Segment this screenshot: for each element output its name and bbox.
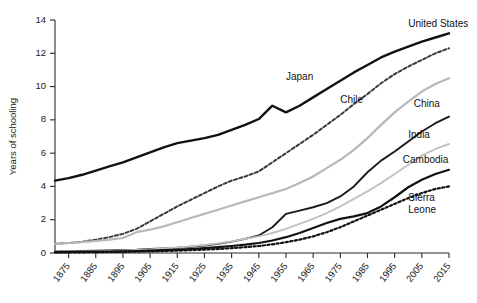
series-label-china: China — [414, 98, 441, 109]
series-line-chile — [55, 78, 449, 244]
series-line-japan — [55, 48, 449, 244]
x-tick-label: 1955 — [268, 260, 290, 283]
y-axis-group: 02468101214 Years of schooling — [7, 14, 55, 258]
years-of-schooling-chart: 02468101214 Years of schooling 187518851… — [0, 0, 477, 303]
x-tick-label: 1885 — [78, 260, 100, 283]
y-tick-label: 4 — [41, 180, 46, 191]
x-tick-label: 1945 — [241, 260, 263, 283]
x-tick-label: 2015 — [431, 260, 453, 283]
y-tick-label: 10 — [35, 80, 46, 91]
x-tick-label: 1995 — [377, 260, 399, 283]
x-tick-label: 1925 — [186, 260, 208, 283]
x-tick-label: 1975 — [322, 260, 344, 283]
x-tick-label: 1905 — [132, 260, 154, 283]
y-tick-label: 2 — [41, 213, 46, 224]
y-tick-group: 02468101214 — [35, 14, 55, 258]
x-tick-label: 1935 — [214, 260, 236, 283]
y-tick-label: 14 — [35, 14, 46, 25]
y-tick-label: 8 — [41, 113, 46, 124]
series-label-india: India — [408, 129, 430, 140]
x-tick-label: 2005 — [404, 260, 426, 283]
y-axis-title: Years of schooling — [7, 98, 18, 175]
series-label-chile: Chile — [340, 94, 363, 105]
x-tick-label: 1965 — [295, 260, 317, 283]
x-tick-label: 1895 — [105, 260, 127, 283]
series-label-sierra-leone: Sierra — [408, 192, 435, 203]
series-line-china — [55, 117, 449, 252]
series-line-united-states — [55, 33, 449, 180]
series-group — [55, 33, 449, 252]
series-label-united-states: United States — [408, 18, 468, 29]
y-tick-label: 0 — [41, 247, 46, 258]
y-tick-label: 12 — [35, 47, 46, 58]
series-line-sierra-leone — [55, 186, 449, 252]
x-tick-label: 1985 — [349, 260, 371, 283]
x-axis-group: 1875188518951905191519251935194519551965… — [50, 253, 452, 284]
series-label-cambodia: Cambodia — [403, 154, 449, 165]
x-tick-group: 1875188518951905191519251935194519551965… — [50, 253, 452, 284]
y-tick-label: 6 — [41, 147, 46, 158]
chart-canvas: 02468101214 Years of schooling 187518851… — [0, 0, 477, 303]
series-label-sierra-leone: Leone — [408, 204, 436, 215]
series-label-japan: Japan — [286, 71, 313, 82]
x-tick-label: 1875 — [50, 260, 72, 283]
x-tick-label: 1915 — [159, 260, 181, 283]
